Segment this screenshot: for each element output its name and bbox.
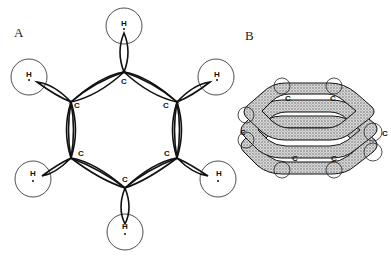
svg-text:H: H <box>26 70 32 79</box>
panel-b: B C C C C C C <box>238 28 388 178</box>
svg-text:C: C <box>292 154 298 163</box>
carbon-hydrogen-sigma-bonds <box>37 33 210 224</box>
panel-label-b: B <box>245 28 254 43</box>
svg-text:C: C <box>331 154 337 163</box>
svg-text:C: C <box>121 77 127 86</box>
panel-a: A <box>11 8 236 250</box>
svg-text:H: H <box>214 70 220 79</box>
panel-label-a: A <box>14 25 24 40</box>
benzene-orbital-diagram: A <box>0 0 391 257</box>
svg-text:C: C <box>285 94 291 103</box>
svg-text:C: C <box>164 149 170 158</box>
svg-text:C: C <box>78 149 84 158</box>
svg-text:C: C <box>240 128 246 137</box>
carbon-carbon-sigma-bonds <box>67 72 182 188</box>
svg-text:C: C <box>74 101 80 110</box>
svg-text:H: H <box>216 169 222 178</box>
hydrogen-nuclei <box>28 28 219 235</box>
svg-text:C: C <box>382 129 388 138</box>
svg-text:C: C <box>330 94 336 103</box>
svg-text:H: H <box>122 222 128 231</box>
svg-text:H: H <box>30 169 36 178</box>
hydrogen-labels: H H H H H H <box>26 19 222 231</box>
hydrogen-s-orbitals <box>11 8 236 250</box>
svg-text:C: C <box>163 101 169 110</box>
svg-text:H: H <box>121 19 127 28</box>
svg-text:C: C <box>122 175 128 184</box>
